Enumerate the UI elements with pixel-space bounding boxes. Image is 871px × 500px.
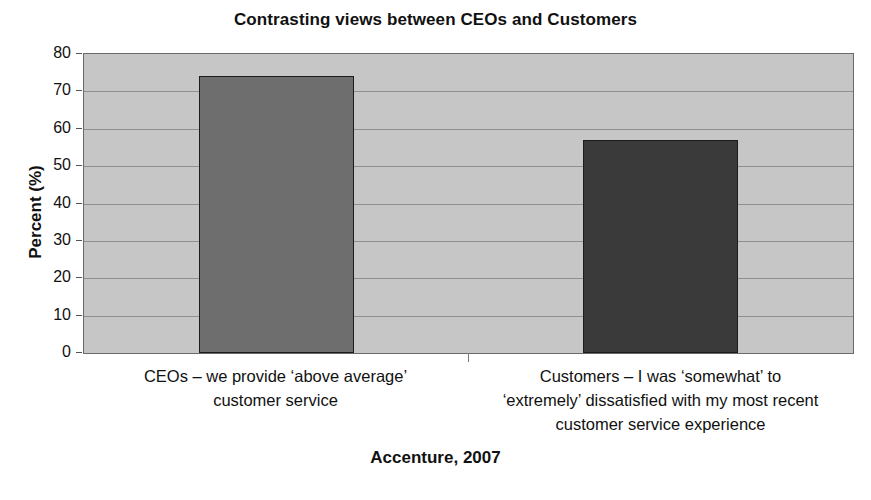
bar-1 [583, 140, 738, 353]
y-tick-mark [76, 315, 82, 316]
x-axis-title-source: Accenture, 2007 [0, 448, 871, 468]
page-edge-artifact [0, 496, 871, 500]
y-tick-mark [76, 240, 82, 241]
y-tick-mark [76, 277, 82, 278]
y-tick-mark [76, 165, 82, 166]
chart-title: Contrasting views between CEOs and Custo… [0, 10, 871, 30]
x-category-label-ceos: CEOs – we provide ‘above average’custome… [88, 364, 463, 412]
y-tick-mark [76, 203, 82, 204]
y-tick-mark [76, 53, 82, 54]
x-category-label-line: CEOs – we provide ‘above average’ [88, 364, 463, 388]
y-tick-mark [76, 128, 82, 129]
y-tick-label: 80 [13, 45, 71, 61]
y-axis-title: Percent (%) [26, 92, 46, 332]
bar-0 [199, 76, 354, 353]
x-category-label-customers: Customers – I was ‘somewhat’ to‘extremel… [473, 364, 848, 436]
category-separator-tick [468, 353, 469, 362]
y-tick-label: 0 [13, 344, 71, 360]
plot-area [83, 53, 854, 354]
x-category-label-line: Customers – I was ‘somewhat’ to [473, 364, 848, 388]
x-category-label-line: customer service experience [473, 412, 848, 436]
x-category-label-line: ‘extremely’ dissatisfied with my most re… [473, 388, 848, 412]
y-tick-mark [76, 352, 82, 353]
chart-figure: Contrasting views between CEOs and Custo… [0, 0, 871, 500]
x-category-label-line: customer service [88, 388, 463, 412]
y-tick-mark [76, 90, 82, 91]
